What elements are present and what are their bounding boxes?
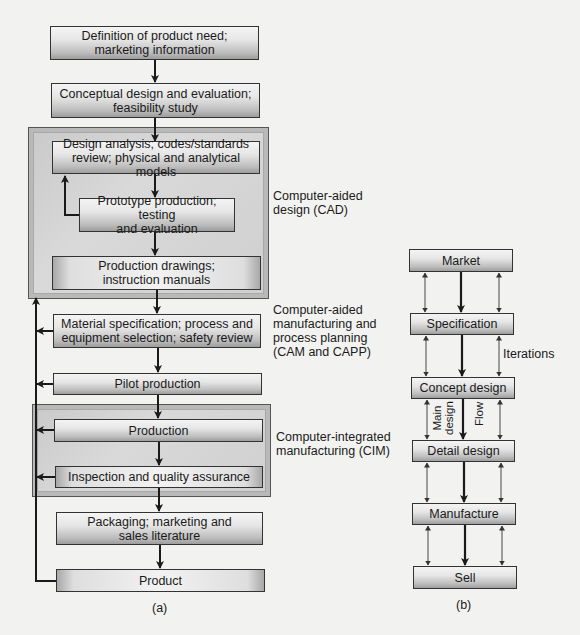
box-text: Product (139, 574, 182, 588)
box-text: Concept design (420, 381, 507, 395)
box-product-need: Definition of product need;marketing inf… (50, 26, 259, 60)
label-line: design (443, 401, 455, 435)
label-line: design (CAD) (273, 203, 363, 217)
box-text: and evaluation (80, 222, 234, 236)
label-line: (CAM and CAPP) (273, 345, 377, 359)
box-text: Market (442, 254, 480, 268)
label-line: Computer-integrated (276, 430, 391, 444)
box-inspection: Inspection and quality assurance (55, 466, 263, 488)
box-text: sales literature (87, 529, 232, 543)
caption-b: (b) (456, 598, 471, 612)
box-material-spec: Material specification; process andequip… (53, 314, 261, 348)
box-production: Production (54, 419, 263, 442)
box-text: Sell (455, 571, 476, 585)
box-product: Product (56, 569, 265, 592)
box-pilot-production: Pilot production (53, 373, 262, 395)
caption-a: (a) (152, 601, 167, 615)
box-production-drawings: Production drawings;instruction manuals (52, 256, 261, 290)
box-conceptual-design: Conceptual design and evaluation;feasibi… (51, 83, 260, 118)
label-line: Computer-aided (273, 189, 363, 203)
box-text: marketing information (82, 43, 228, 57)
box-specification: Specification (410, 313, 514, 335)
box-text: Design analysis; codes/standards (53, 137, 259, 151)
box-text: Detail design (427, 444, 499, 458)
box-text: Conceptual design and evaluation; (60, 87, 252, 101)
box-manufacture: Manufacture (412, 503, 516, 525)
box-sell: Sell (413, 566, 517, 589)
box-text: feasibility study (60, 101, 252, 115)
box-concept-design: Concept design (411, 377, 515, 399)
label-line: Computer-aided (273, 303, 377, 317)
box-text: Inspection and quality assurance (68, 470, 250, 484)
label-line: manufacturing (CIM) (276, 444, 391, 458)
box-market: Market (409, 249, 513, 272)
box-text: Definition of product need; (82, 29, 228, 43)
label-flow: Flow (473, 402, 485, 426)
box-text: Production (129, 424, 189, 438)
box-text: Pilot production (114, 377, 200, 391)
label-cad: Computer-aided design (CAD) (273, 189, 363, 217)
label-line: process planning (273, 331, 377, 345)
label-line: manufacturing and (273, 317, 377, 331)
label-cim: Computer-integrated manufacturing (CIM) (276, 430, 391, 458)
box-text: review; physical and analytical models (53, 151, 259, 179)
box-text: Material specification; process and (61, 317, 253, 331)
label-main-design: Main design (431, 401, 455, 435)
box-text: instruction manuals (98, 273, 215, 287)
label-line: Main (431, 401, 443, 435)
box-text: Manufacture (429, 507, 498, 521)
label-cam: Computer-aided manufacturing and process… (273, 303, 377, 359)
box-text: Packaging; marketing and (87, 515, 232, 529)
box-text: equipment selection; safety review (61, 331, 253, 345)
label-iterations: Iterations (503, 347, 554, 361)
box-text: Production drawings; (98, 259, 215, 273)
box-design-analysis: Design analysis; codes/standardsreview; … (52, 141, 260, 174)
box-packaging: Packaging; marketing andsales literature (56, 512, 263, 545)
box-text: Prototype production; testing (80, 194, 234, 222)
box-text: Specification (427, 317, 498, 331)
label-line: Flow (473, 402, 485, 426)
box-detail-design: Detail design (412, 440, 515, 462)
box-prototype: Prototype production; testingand evaluat… (79, 198, 235, 232)
